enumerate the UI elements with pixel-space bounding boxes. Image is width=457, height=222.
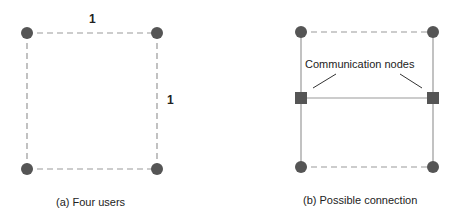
user-node — [295, 161, 307, 173]
user-node — [151, 27, 163, 39]
edge-label-right: 1 — [167, 93, 174, 107]
user-node — [427, 26, 439, 38]
panel-a-graph — [21, 27, 163, 175]
caption-b: (b) Possible connection — [303, 194, 417, 206]
user-node — [295, 26, 307, 38]
caption-a: (a) Four users — [56, 196, 125, 208]
user-node — [21, 27, 33, 39]
panel-b-graph — [295, 26, 439, 173]
user-node — [151, 163, 163, 175]
user-node — [427, 161, 439, 173]
edge-label-top: 1 — [89, 12, 96, 26]
diagram-canvas — [0, 0, 457, 222]
user-node — [21, 163, 33, 175]
communication-node — [427, 92, 439, 104]
communication-node — [295, 92, 307, 104]
communication-nodes-label: Communication nodes — [305, 58, 414, 70]
